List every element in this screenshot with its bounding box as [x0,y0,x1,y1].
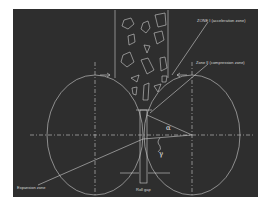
zone2-label: Zone II (compression zone) [196,60,245,65]
rock [144,45,150,53]
rock [154,31,164,44]
rock [162,76,167,82]
rock [132,87,137,95]
rock [141,58,154,74]
rock [122,18,134,29]
rock [141,21,150,33]
expansion-zone-label: Expansion zone [17,185,46,190]
zone2-leader [150,64,208,113]
rock [160,57,167,71]
zone1-leader [172,22,208,75]
rock [131,75,139,82]
rock [121,52,134,67]
rock [128,34,135,45]
roll-gap-bar [140,110,147,183]
roll-crusher-diagram: ZONE I (acceleration zone) Zone II (comp… [0,0,271,211]
expansion-leader [38,139,143,185]
roll-gap-label: Roll gap [136,187,151,192]
gamma-line [143,135,192,139]
alpha-symbol: α [166,124,171,132]
rock [155,13,166,27]
gamma-symbol: γ [159,150,163,158]
rock [154,84,161,92]
zone1-label: ZONE I (acceleration zone) [197,18,246,23]
rock [143,83,149,100]
